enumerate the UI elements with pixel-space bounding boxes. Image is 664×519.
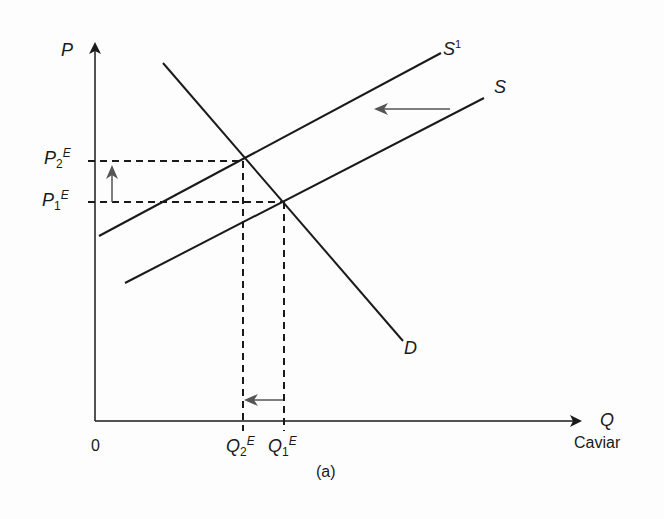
q1-label: Q1E [268,436,297,457]
y-axis-label: P [61,40,73,61]
supply-label: S [494,77,506,98]
x-axis-sublabel: Caviar [574,434,620,452]
figure-caption: (a) [316,463,336,481]
supply-shifted-label: S1 [443,39,461,60]
demand-label: D [404,338,417,359]
p2-label: P2E [44,148,71,169]
p1-label: P1E [42,190,69,211]
q2-label: Q2E [226,436,255,457]
origin-label: 0 [91,437,100,455]
x-axis-label: Q [600,410,614,431]
